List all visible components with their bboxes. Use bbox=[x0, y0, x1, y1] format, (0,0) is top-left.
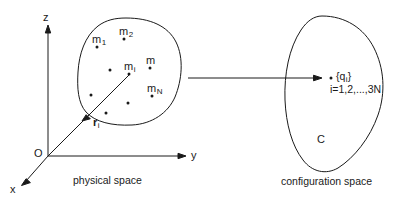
position-vector-subscript: i bbox=[97, 121, 99, 130]
particle-dot-unlabeled-2 bbox=[90, 94, 93, 97]
mapping-arrow bbox=[188, 75, 322, 81]
mass-symbol: m bbox=[146, 54, 155, 66]
index-range-label: i=1,2,...,3N bbox=[330, 84, 381, 95]
configuration-region-label: C bbox=[317, 134, 325, 145]
mass-symbol: m bbox=[119, 25, 128, 37]
position-vector-line bbox=[48, 75, 129, 156]
mass-label-mN: mN bbox=[147, 83, 162, 96]
particle-dot-unlabeled-1 bbox=[109, 69, 112, 72]
mass-subscript: 1 bbox=[101, 38, 106, 47]
mass-subscript: 2 bbox=[128, 30, 133, 39]
physical-space-particles bbox=[90, 38, 154, 115]
y-axis-arrowhead bbox=[178, 153, 186, 158]
position-vector bbox=[48, 75, 129, 156]
mass-subscript bbox=[155, 59, 156, 68]
mass-symbol: m bbox=[92, 33, 101, 45]
coordinate-axes bbox=[22, 25, 187, 186]
x-axis-arrowhead bbox=[22, 179, 31, 186]
diagram-canvas: z y x O ri m1 m2 m mi mN physical space … bbox=[0, 0, 409, 199]
mass-label-m2: m2 bbox=[119, 26, 133, 39]
mass-symbol: m bbox=[147, 82, 156, 94]
mass-symbol: m bbox=[124, 60, 133, 72]
mass-subscript: i bbox=[133, 65, 135, 74]
position-vector-label: ri bbox=[93, 117, 100, 130]
configuration-point-dot bbox=[330, 77, 333, 80]
mapping-arrow-head bbox=[314, 75, 323, 81]
particle-dot-unlabeled-3 bbox=[127, 102, 130, 105]
mass-label-mi: mi bbox=[124, 61, 135, 74]
mass-label-m: m bbox=[146, 55, 156, 68]
mass-label-m1: m1 bbox=[92, 34, 106, 47]
diagram-vector-layer bbox=[0, 0, 409, 199]
z-axis-label: z bbox=[43, 12, 49, 23]
mass-subscript: N bbox=[156, 87, 162, 96]
origin-label: O bbox=[34, 148, 43, 159]
coordinate-set-close-brace: } bbox=[348, 70, 352, 82]
x-axis-label: x bbox=[10, 184, 16, 195]
y-axis-label: y bbox=[191, 150, 197, 161]
physical-space-caption: physical space bbox=[73, 175, 142, 186]
configuration-space-caption: configuration space bbox=[281, 176, 372, 187]
z-axis-arrowhead bbox=[45, 25, 50, 33]
x-axis-line bbox=[26, 156, 48, 181]
particle-dot-unlabeled-4 bbox=[105, 112, 108, 115]
